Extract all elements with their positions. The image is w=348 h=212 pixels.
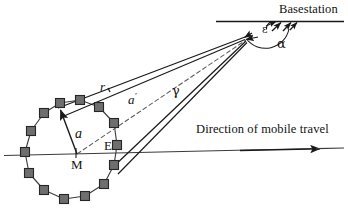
ray-a-prime <box>77 40 246 154</box>
scatterer-square <box>21 148 30 157</box>
scatterer-square <box>110 119 119 128</box>
scatterer-square <box>40 109 49 118</box>
scatterer-square <box>40 186 49 195</box>
ray-gamma-lower <box>118 43 247 175</box>
scatterer-square <box>95 103 104 112</box>
scatterer-square <box>110 161 119 170</box>
angle-alpha-label: α <box>277 37 286 50</box>
arrowhead-ray-1 <box>245 33 253 38</box>
distance-r-label: r <box>100 80 105 93</box>
scatterer-square <box>100 180 109 189</box>
scatterer-square <box>25 169 34 178</box>
mobile-travel-axis-tail <box>316 148 344 149</box>
radius-a-prime-label: a′ <box>128 92 136 106</box>
arrowhead-ray-2 <box>246 37 258 40</box>
radius-a-prime-mark: ′ <box>135 91 137 101</box>
direction-of-travel-label: Direction of mobile travel <box>196 123 329 136</box>
scattering-geometry-figure: Basestation ε α r a′ γ a E M Direction o… <box>0 0 348 212</box>
ray-r-lower <box>64 40 245 117</box>
scatterer-square <box>76 96 85 105</box>
scatterer-square <box>81 192 90 201</box>
point-E-label: E <box>104 139 112 152</box>
diagram-canvas <box>0 0 348 212</box>
arrowhead-baseline-4 <box>290 23 297 31</box>
angle-epsilon-label: ε <box>262 24 267 35</box>
point-M-label: M <box>71 158 83 171</box>
scatterer-square <box>60 195 69 204</box>
scatterer-square <box>56 99 65 108</box>
mobile-travel-arrow <box>240 149 320 151</box>
angle-gamma-label: γ <box>172 84 180 97</box>
radius-a-label: a <box>75 127 82 141</box>
arrowhead-baseline-2 <box>272 23 281 32</box>
scatterer-square <box>27 127 36 136</box>
scatterer-square <box>113 141 122 150</box>
mobile-travel-axis-group <box>4 148 344 156</box>
basestation-label: Basestation <box>279 3 338 16</box>
